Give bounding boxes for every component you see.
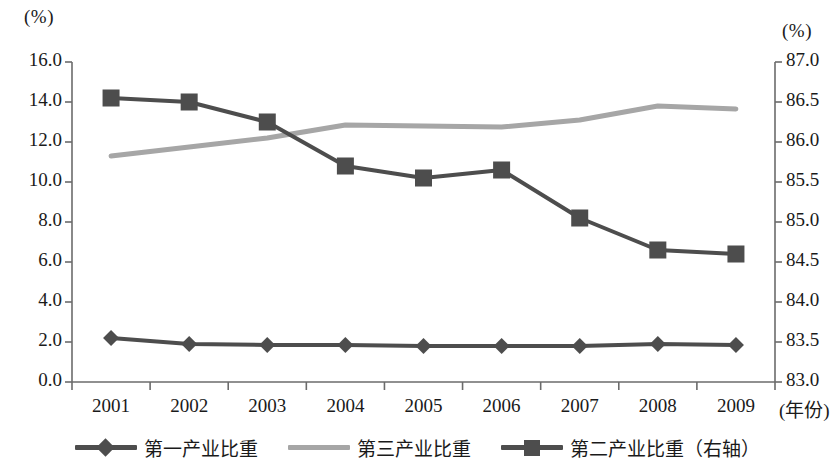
legend-swatch: [501, 438, 563, 456]
legend-square-icon: [524, 440, 540, 456]
series-marker-diamond: [337, 337, 353, 353]
series-marker-diamond: [494, 338, 510, 354]
series-marker-square: [103, 90, 120, 107]
left-axis-tick-label: 6.0: [4, 249, 62, 271]
series-marker-square: [259, 114, 276, 131]
series-marker-square: [493, 162, 510, 179]
series-marker-diamond: [572, 338, 588, 354]
right-axis-tick-label: 83.5: [786, 329, 819, 351]
legend-item[interactable]: 第三产业比重: [288, 434, 471, 461]
series-marker-square: [181, 94, 198, 111]
left-axis-tick-label: 12.0: [4, 129, 62, 151]
series-marker-square: [649, 242, 666, 259]
left-axis-tick-label: 0.0: [4, 369, 62, 391]
series-marker-square: [337, 158, 354, 175]
series-marker-diamond: [103, 330, 119, 346]
series-marker-diamond: [728, 337, 744, 353]
right-axis-tick-label: 87.0: [786, 49, 819, 71]
right-axis-tick-label: 86.5: [786, 89, 819, 111]
legend-label: 第三产业比重: [357, 434, 471, 461]
series-marker-diamond: [259, 337, 275, 353]
left-axis-tick-label: 16.0: [4, 49, 62, 71]
x-axis-tick-label: 2004: [305, 395, 385, 417]
right-axis-tick-label: 84.5: [786, 249, 819, 271]
legend-item[interactable]: 第二产业比重（右轴）: [501, 434, 760, 461]
series-line: [111, 106, 736, 156]
x-axis-tick-label: 2008: [618, 395, 698, 417]
right-axis-unit-label: (%): [782, 20, 812, 42]
x-axis-tick-label: 2006: [462, 395, 542, 417]
left-axis-tick-label: 2.0: [4, 329, 62, 351]
legend-label: 第一产业比重: [144, 434, 258, 461]
series-marker-diamond: [181, 336, 197, 352]
x-axis-tick-label: 2005: [384, 395, 464, 417]
legend-line: [288, 445, 350, 450]
left-axis-tick-label: 8.0: [4, 209, 62, 231]
legend-label: 第二产业比重（右轴）: [570, 434, 760, 461]
left-axis-unit-label: (%): [24, 6, 54, 28]
x-axis-tick-label: 2002: [149, 395, 229, 417]
legend-item[interactable]: 第一产业比重: [75, 434, 258, 461]
series-marker-square: [415, 170, 432, 187]
x-axis-tick-label: 2007: [540, 395, 620, 417]
x-axis-tick-label: 2009: [696, 395, 776, 417]
left-axis-tick-label: 10.0: [4, 169, 62, 191]
right-axis-tick-label: 83.0: [786, 369, 819, 391]
right-axis-tick-label: 85.0: [786, 209, 819, 231]
right-axis-tick-label: 84.0: [786, 289, 819, 311]
right-axis-tick-label: 86.0: [786, 129, 819, 151]
left-axis-tick-label: 4.0: [4, 289, 62, 311]
chart-figure: (%) (%) 0.02.04.06.08.010.012.014.016.0 …: [0, 0, 834, 464]
legend-swatch: [288, 438, 350, 456]
left-axis-tick-label: 14.0: [4, 89, 62, 111]
legend-swatch: [75, 438, 137, 456]
series-marker-square: [571, 210, 588, 227]
x-axis-tick-label: 2001: [71, 395, 151, 417]
right-axis-tick-label: 85.5: [786, 169, 819, 191]
series-marker-diamond: [650, 336, 666, 352]
series-marker-square: [727, 246, 744, 263]
x-axis-title: (年份): [779, 395, 830, 422]
series-marker-diamond: [416, 338, 432, 354]
legend-diamond-icon: [96, 438, 114, 456]
x-axis-tick-label: 2003: [227, 395, 307, 417]
chart-legend: 第一产业比重第三产业比重第二产业比重（右轴）: [0, 430, 834, 464]
